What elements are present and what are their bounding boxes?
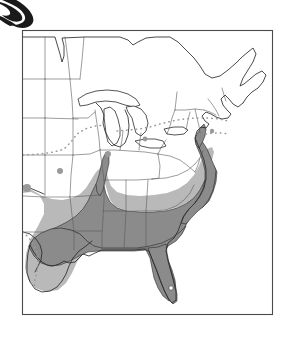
distribution-map-figure xyxy=(0,0,296,337)
occurrence-dot xyxy=(105,151,111,157)
occurrence-dot xyxy=(143,137,148,142)
map-svg xyxy=(0,0,296,337)
occurrence-dot xyxy=(210,129,214,133)
lake-okeechobee xyxy=(169,286,173,290)
occurrence-dot xyxy=(57,168,63,174)
occurrence-dot xyxy=(23,184,31,192)
cropped-illustration-crescent xyxy=(0,0,33,28)
